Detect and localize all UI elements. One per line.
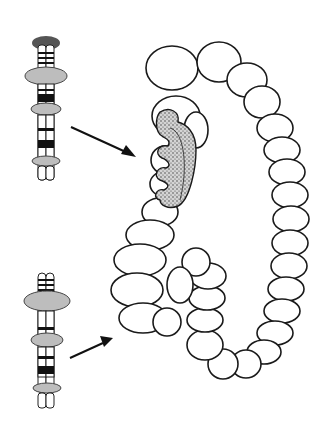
chromosome-top bbox=[25, 36, 67, 180]
probe-disc bbox=[32, 156, 60, 166]
arrow-bottom bbox=[70, 336, 113, 358]
colon-structure bbox=[111, 42, 309, 379]
probe-disc bbox=[33, 383, 61, 393]
probe-disc bbox=[31, 333, 63, 347]
probe-disc bbox=[25, 67, 67, 85]
diagram-canvas bbox=[0, 0, 317, 431]
chromosome-bottom bbox=[24, 273, 70, 408]
probe-disc bbox=[24, 291, 70, 311]
probe-disc bbox=[31, 103, 61, 115]
arrow-top bbox=[71, 127, 136, 157]
